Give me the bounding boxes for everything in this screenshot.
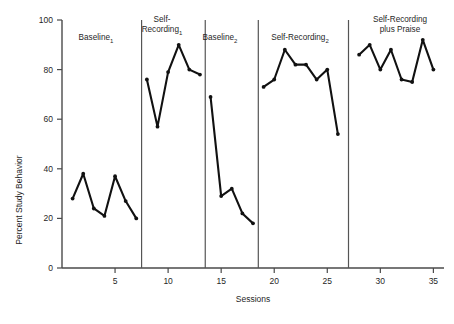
data-point — [187, 68, 191, 72]
data-point — [421, 38, 425, 42]
data-point — [219, 194, 223, 198]
data-point — [230, 187, 234, 191]
x-tick-label: 20 — [269, 276, 279, 286]
data-point — [156, 125, 160, 129]
x-tick-label: 10 — [163, 276, 173, 286]
data-point — [124, 199, 128, 203]
chart-background — [0, 0, 454, 324]
x-tick-label: 35 — [429, 276, 439, 286]
data-point — [145, 78, 149, 82]
study-behavior-line-chart: 020406080100 5101520253035 Baseline1Self… — [0, 0, 454, 324]
phase-label-line1: Self-Recording — [373, 15, 428, 24]
data-point — [431, 68, 435, 72]
data-point — [209, 95, 213, 99]
x-axis-title: Sessions — [236, 294, 271, 304]
chart-container: 020406080100 5101520253035 Baseline1Self… — [0, 0, 454, 324]
data-point — [113, 174, 117, 178]
y-tick-label: 40 — [44, 164, 54, 174]
data-point — [283, 48, 287, 52]
y-tick-label: 60 — [44, 114, 54, 124]
y-tick-label: 0 — [48, 263, 53, 273]
data-point — [81, 172, 85, 176]
data-point — [71, 197, 75, 201]
data-point — [378, 68, 382, 72]
data-point — [198, 73, 202, 77]
phase-label-line1: Self- — [154, 15, 171, 24]
y-tick-label: 80 — [44, 65, 54, 75]
y-axis-title: Percent Study Behavior — [14, 155, 24, 244]
x-tick-label: 5 — [113, 276, 118, 286]
data-point — [294, 63, 298, 67]
data-point — [400, 78, 404, 82]
x-tick-label: 25 — [323, 276, 333, 286]
data-point — [304, 63, 308, 67]
data-point — [357, 53, 361, 57]
data-point — [134, 217, 138, 221]
data-point — [336, 132, 340, 136]
data-point — [240, 212, 244, 216]
y-tick-label: 100 — [39, 15, 53, 25]
data-point — [262, 85, 266, 89]
data-point — [177, 43, 181, 47]
y-tick-label: 20 — [44, 213, 54, 223]
data-point — [325, 68, 329, 72]
data-point — [92, 207, 96, 211]
data-point — [272, 78, 276, 82]
phase-label-line2: plus Praise — [380, 25, 421, 34]
data-point — [103, 214, 107, 218]
data-point — [251, 221, 255, 225]
x-tick-label: 30 — [376, 276, 386, 286]
data-point — [389, 48, 393, 52]
data-point — [315, 78, 319, 82]
data-point — [368, 43, 372, 47]
x-tick-label: 15 — [216, 276, 226, 286]
data-point — [166, 70, 170, 74]
data-point — [410, 80, 414, 84]
